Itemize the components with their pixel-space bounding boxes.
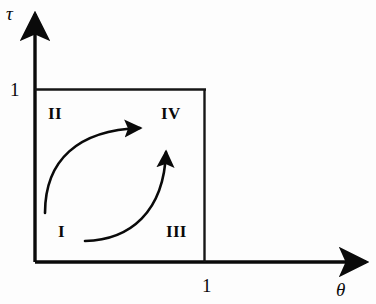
arrow-I-to-IV-upper: [45, 128, 140, 213]
x-axis-tick-label-1: 1: [202, 276, 212, 295]
x-axis-label-theta: θ: [336, 280, 345, 299]
region-label-II: II: [48, 105, 62, 122]
region-label-I: I: [58, 223, 65, 240]
region-label-IV: IV: [161, 105, 181, 122]
region-label-III: III: [166, 223, 187, 240]
phase-diagram-svg: [0, 0, 376, 304]
arrow-I-to-IV-lower: [85, 152, 166, 241]
y-axis-tick-label-1: 1: [10, 80, 20, 99]
y-axis-label-tau: τ: [6, 4, 13, 23]
figure-canvas: τ θ 1 1 II IV I III: [0, 0, 376, 304]
